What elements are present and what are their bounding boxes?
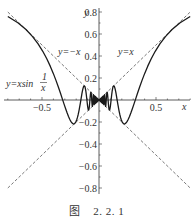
y-tick-label: −0.4 — [79, 139, 97, 150]
label-y-equals-minus-x: y=−x — [57, 46, 81, 57]
y-tick-label: −0.2 — [79, 117, 97, 128]
y-axis-label: y — [83, 7, 89, 18]
curve-label-prefix: y=xsin — [5, 78, 33, 89]
curve-label-fraction-num: 1 — [42, 71, 47, 82]
y-tick-label: 0.4 — [85, 51, 98, 62]
x-tick-label: −0.5 — [33, 102, 51, 113]
function-plot: −0.50.5 0.80.60.40.2−0.2−0.4−0.6−0.8 y x… — [0, 0, 193, 200]
curve-label-fraction-den: x — [40, 82, 46, 93]
figure-caption: 图 2. 2. 1 — [0, 202, 193, 218]
x-tick-label: 0.5 — [150, 102, 163, 113]
y-tick-label: 0.6 — [85, 29, 98, 40]
label-y-equals-x: y=x — [117, 46, 134, 57]
y-tick-label: −0.8 — [79, 183, 97, 194]
y-tick-label: −0.6 — [79, 161, 97, 172]
x-tick-labels: −0.50.5 — [33, 102, 162, 113]
label-curve: y=xsin 1 x — [5, 71, 47, 93]
y-tick-label: 0.2 — [85, 73, 98, 84]
x-axis-label: x — [181, 101, 187, 112]
